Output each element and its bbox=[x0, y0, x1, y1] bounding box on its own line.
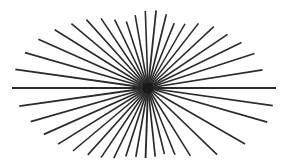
starburst-canvas bbox=[0, 0, 296, 167]
starburst-figure bbox=[0, 0, 296, 167]
convergence-core bbox=[143, 83, 154, 94]
